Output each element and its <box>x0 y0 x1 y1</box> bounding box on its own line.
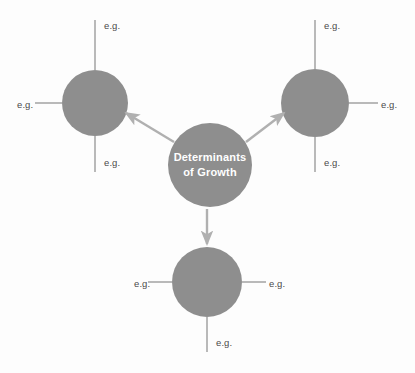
eg-label-top-left-left: e.g. <box>17 100 33 110</box>
eg-label-top-right-up: e.g. <box>324 21 340 31</box>
eg-label-bottom-left: e.g. <box>134 279 150 289</box>
eg-label-top-left-up: e.g. <box>104 21 120 31</box>
determinants-of-growth-diagram: Determinants of Growth e.g. e.g. e.g. e.… <box>0 0 415 373</box>
eg-label-top-right-down: e.g. <box>324 158 340 168</box>
center-node-label-line2: of Growth <box>183 166 237 178</box>
node-circle-top-left <box>62 70 128 136</box>
center-node-label-line1: Determinants <box>174 151 247 163</box>
center-node-label: Determinants of Growth <box>150 150 270 180</box>
node-circle-bottom <box>172 247 242 317</box>
eg-label-top-right-right: e.g. <box>381 100 397 110</box>
eg-label-bottom-down: e.g. <box>216 338 232 348</box>
eg-label-top-left-down: e.g. <box>104 158 120 168</box>
diagram-canvas <box>0 0 415 373</box>
eg-label-bottom-right: e.g. <box>269 279 285 289</box>
branch-bottom-group <box>148 247 266 352</box>
arrow-to-top-right <box>246 113 284 142</box>
node-circle-top-right <box>281 69 349 137</box>
branch-top-left-group <box>35 20 128 172</box>
arrow-to-top-left <box>126 113 174 142</box>
branch-top-right-group <box>281 20 378 172</box>
